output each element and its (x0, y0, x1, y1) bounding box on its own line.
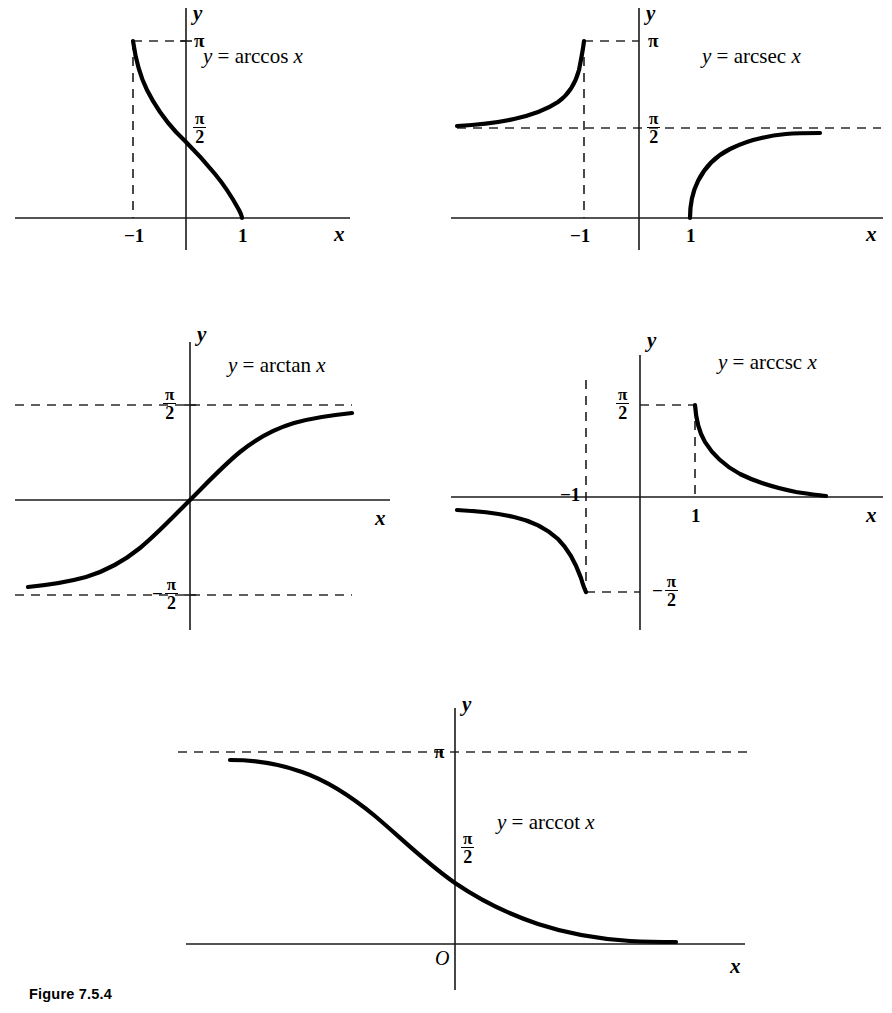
arctan-neg-pi-half-denominator: 2 (165, 593, 178, 612)
arccot-pi-half-denominator: 2 (461, 847, 474, 866)
arccsc-equation-label: y = arccsc x (718, 352, 817, 373)
arctan-x-axis-label: x (375, 508, 386, 529)
arccos-tick-pi-half: π 2 (193, 110, 206, 147)
arcsec-equation-label: y = arcsec x (702, 46, 801, 67)
arccot-curve (230, 760, 676, 942)
graph-arccot (150, 690, 770, 990)
arccsc-y-axis-label: y (647, 330, 656, 351)
arccot-eq-x: x (585, 810, 594, 834)
arccot-origin-label: O (435, 948, 449, 968)
arccos-eq-fn: arccos (235, 44, 289, 68)
arccot-x-axis-label: x (730, 956, 741, 977)
arccsc-neg-pi-half-denominator: 2 (665, 590, 678, 609)
arccsc-eq-fn: arccsc (750, 350, 802, 374)
arccsc-pi-half-denominator: 2 (616, 403, 629, 422)
graph-arcsec (446, 0, 892, 260)
arcsec-eq-y: y (702, 44, 711, 68)
arctan-neg-pi-half-numerator: π (165, 576, 178, 593)
arccos-pi-half-numerator: π (193, 110, 206, 127)
arctan-neg-pi-half-sign: − (152, 583, 163, 605)
arccos-y-axis-label: y (193, 3, 202, 24)
arccot-y-axis-label: y (462, 694, 471, 715)
arcsec-pi-half-denominator: 2 (647, 127, 660, 146)
arcsec-eq-fn: arcsec (734, 44, 786, 68)
arccsc-eq-equals: = (733, 350, 745, 374)
arctan-pi-half-numerator: π (163, 386, 176, 403)
arcsec-right-branch (690, 133, 820, 218)
arccsc-tick-neg-pi-half: − π 2 (652, 573, 678, 610)
arccsc-x-axis-label: x (866, 505, 877, 526)
arccot-eq-equals: = (512, 810, 524, 834)
arccos-tick-one: 1 (238, 226, 248, 245)
arccos-tick-neg-one: −1 (124, 226, 144, 245)
arccsc-tick-neg-one: −1 (560, 485, 580, 504)
arctan-tick-neg-pi-half: − π 2 (152, 576, 178, 613)
arctan-eq-equals: = (243, 353, 255, 377)
arcsec-tick-one: 1 (686, 226, 696, 245)
arcsec-left-branch (457, 41, 584, 126)
arctan-tick-pi-half: π 2 (163, 386, 176, 423)
arccos-equation-label: y = arccos x (203, 46, 303, 67)
arccsc-right-branch (695, 405, 826, 496)
graph-arctan (0, 320, 446, 630)
arcsec-x-axis-label: x (866, 224, 877, 245)
arcsec-tick-pi-half: π 2 (647, 110, 660, 147)
arccsc-eq-y: y (718, 350, 727, 374)
arccsc-tick-one: 1 (691, 506, 701, 525)
arccsc-tick-pi-half: π 2 (616, 386, 629, 423)
arccot-eq-fn: arccot (529, 810, 580, 834)
arccot-pi-half-numerator: π (461, 830, 474, 847)
arccot-tick-pi-half: π 2 (461, 830, 474, 867)
arcsec-y-axis-label: y (646, 3, 655, 24)
arccsc-neg-pi-half-numerator: π (665, 573, 678, 590)
arcsec-eq-x: x (791, 44, 800, 68)
arccos-eq-equals: = (218, 44, 230, 68)
arccot-tick-pi: π (434, 742, 444, 761)
arccos-pi-half-denominator: 2 (193, 127, 206, 146)
arccos-eq-x: x (294, 44, 303, 68)
arctan-eq-x: x (316, 353, 325, 377)
arctan-eq-y: y (228, 353, 237, 377)
arccsc-pi-half-numerator: π (616, 386, 629, 403)
arctan-y-axis-label: y (197, 324, 206, 345)
graph-arccos (0, 0, 446, 260)
figure-container: y x π π 2 −1 1 y = arccos x y x π π 2 (0, 0, 892, 1013)
arctan-equation-label: y = arctan x (228, 355, 326, 376)
arcsec-pi-half-numerator: π (647, 110, 660, 127)
arctan-eq-fn: arctan (260, 353, 311, 377)
figure-caption: Figure 7.5.4 (29, 986, 112, 1002)
arcsec-eq-equals: = (717, 44, 729, 68)
arccot-eq-y: y (497, 810, 506, 834)
arccsc-neg-pi-half-sign: − (652, 580, 663, 602)
arccos-eq-y: y (203, 44, 212, 68)
arccos-x-axis-label: x (334, 224, 345, 245)
arctan-pi-half-denominator: 2 (163, 403, 176, 422)
arcsec-tick-pi: π (648, 31, 658, 50)
arcsec-tick-neg-one: −1 (570, 226, 590, 245)
arccsc-left-branch (457, 510, 586, 592)
arccot-equation-label: y = arccot x (497, 812, 595, 833)
arccsc-eq-x: x (807, 350, 816, 374)
